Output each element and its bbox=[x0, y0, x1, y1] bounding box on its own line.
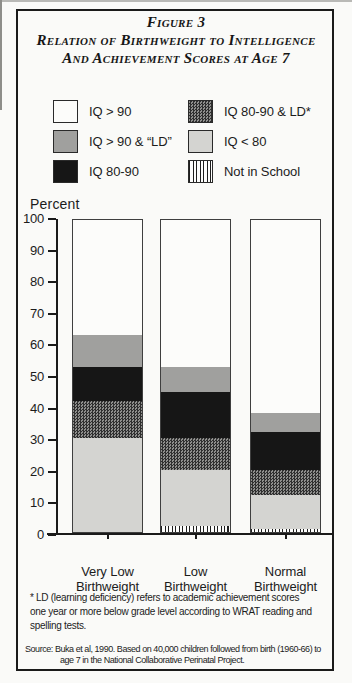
segment-black bbox=[251, 432, 320, 469]
segment-gray bbox=[251, 413, 320, 432]
black-swatch-icon bbox=[53, 160, 78, 183]
segment-crosshatch bbox=[161, 438, 230, 469]
x-tick-mark bbox=[107, 533, 109, 539]
plot-area: Very Low BirthweightLow BirthweightNorma… bbox=[56, 219, 332, 535]
baseline-extension bbox=[47, 533, 58, 535]
legend-item: IQ > 90 bbox=[53, 96, 188, 126]
segment-white bbox=[251, 220, 320, 413]
lightgray-swatch-icon bbox=[188, 130, 213, 153]
y-tick-mark bbox=[48, 281, 56, 283]
bar-very-low bbox=[72, 219, 143, 533]
title-line-2: Relation of Birthweight to Intelligence bbox=[20, 31, 332, 49]
segment-white bbox=[73, 220, 142, 335]
segment-black bbox=[161, 392, 230, 439]
legend-label: IQ 80-90 bbox=[89, 164, 139, 179]
segment-lightgray bbox=[251, 495, 320, 529]
y-tick-mark bbox=[48, 439, 56, 441]
y-axis: 1009080706050403020100 bbox=[20, 219, 56, 535]
y-tick-mark bbox=[48, 471, 56, 473]
crosshatch-swatch-icon bbox=[188, 100, 213, 123]
y-tick-label: 80 bbox=[20, 274, 44, 289]
segment-vstripes bbox=[251, 529, 320, 532]
y-tick-label: 30 bbox=[20, 432, 44, 447]
bar-normal bbox=[250, 219, 321, 533]
scan-left-edge bbox=[0, 0, 2, 110]
title-line-3: And Achievement Scores at Age 7 bbox=[20, 49, 332, 67]
scan-top-edge bbox=[0, 0, 352, 2]
segment-crosshatch bbox=[251, 470, 320, 495]
y-tick-mark bbox=[48, 376, 56, 378]
x-category-label: Normal Birthweight bbox=[231, 564, 341, 594]
y-tick-mark bbox=[48, 502, 56, 504]
y-tick-label: 70 bbox=[20, 306, 44, 321]
x-tick-mark bbox=[285, 533, 287, 539]
legend-label: IQ < 80 bbox=[224, 134, 266, 149]
y-axis-title: Percent bbox=[30, 196, 332, 212]
y-tick-label: 60 bbox=[20, 337, 44, 352]
ld-footnote: * LD (learning deficiency) refers to aca… bbox=[30, 591, 330, 633]
segment-black bbox=[73, 367, 142, 401]
y-tick-label: 50 bbox=[20, 369, 44, 384]
source-citation: Source: Buka et al, 1990. Based on 40,00… bbox=[25, 644, 335, 666]
bar-low bbox=[160, 219, 231, 533]
legend-label: IQ 80-90 & LD* bbox=[224, 104, 311, 119]
legend-item: IQ > 90 & “LD” bbox=[53, 126, 188, 156]
white-swatch-icon bbox=[53, 100, 78, 123]
segment-vstripes bbox=[161, 526, 230, 532]
x-tick-mark bbox=[195, 533, 197, 539]
segment-crosshatch bbox=[73, 401, 142, 438]
y-tick-mark bbox=[48, 313, 56, 315]
segment-lightgray bbox=[73, 438, 142, 532]
y-tick-mark bbox=[48, 344, 56, 346]
legend-item: IQ 80-90 bbox=[53, 156, 188, 186]
figure-number: Figure 3 bbox=[20, 13, 332, 31]
segment-white bbox=[161, 220, 230, 367]
legend: IQ > 90IQ > 90 & “LD”IQ 80-90IQ 80-90 & … bbox=[53, 96, 333, 186]
gray-swatch-icon bbox=[53, 130, 78, 153]
segment-gray bbox=[161, 367, 230, 392]
y-tick-label: 40 bbox=[20, 401, 44, 416]
scanned-figure-page: { "figure": { "title_line1": "Figure 3",… bbox=[0, 0, 352, 683]
stacked-bar-chart: Percent 1009080706050403020100 Very Low … bbox=[20, 196, 332, 535]
y-tick-mark bbox=[48, 218, 56, 220]
y-tick-label: 90 bbox=[20, 243, 44, 258]
plot-wrap: 1009080706050403020100 Very Low Birthwei… bbox=[20, 219, 332, 535]
y-tick-label: 20 bbox=[20, 464, 44, 479]
figure-title: Figure 3 Relation of Birthweight to Inte… bbox=[20, 13, 332, 67]
legend-label: Not in School bbox=[224, 164, 300, 179]
source-line-2: age 7 in the National Collaborative Peri… bbox=[60, 655, 335, 666]
y-tick-label: 0 bbox=[20, 527, 44, 542]
legend-label: IQ > 90 bbox=[89, 104, 131, 119]
legend-item: IQ < 80 bbox=[188, 126, 333, 156]
vstripes-swatch-icon bbox=[188, 160, 213, 183]
legend-label: IQ > 90 & “LD” bbox=[89, 134, 172, 149]
source-line-1: Source: Buka et al, 1990. Based on 40,00… bbox=[25, 644, 335, 655]
legend-item: Not in School bbox=[188, 156, 333, 186]
segment-lightgray bbox=[161, 470, 230, 526]
y-tick-mark bbox=[48, 408, 56, 410]
y-tick-label: 100 bbox=[20, 211, 44, 226]
y-tick-mark bbox=[48, 250, 56, 252]
legend-item: IQ 80-90 & LD* bbox=[188, 96, 333, 126]
y-tick-label: 10 bbox=[20, 495, 44, 510]
segment-gray bbox=[73, 335, 142, 366]
